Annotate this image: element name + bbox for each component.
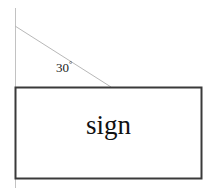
sign-rectangle-label: sign [15, 112, 202, 139]
geometry-drawing [0, 0, 212, 192]
angle-value-text: 30 [56, 60, 69, 75]
degree-symbol-icon: ° [69, 60, 72, 69]
angle-measure-label: 30° [56, 61, 72, 74]
inclined-ray-line [15, 26, 111, 87]
diagram-canvas: 30° sign [0, 0, 212, 192]
